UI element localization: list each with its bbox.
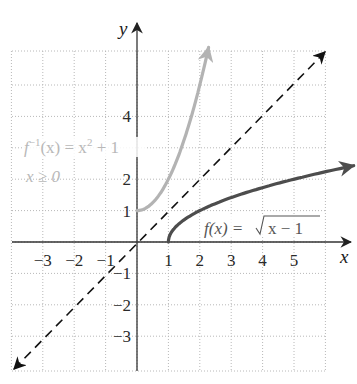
- f-function-label: f(x) =: [204, 219, 243, 238]
- x-tick-label: −3: [34, 251, 52, 270]
- x-tick-label: 1: [164, 251, 173, 270]
- x-tick-labels: −3−2−112345: [34, 251, 298, 270]
- f-radicand: x − 1: [268, 219, 303, 238]
- x-axis-label: x: [339, 246, 349, 267]
- function-inverse-graph: −3−2−112345 421−1−2−3 x y f−1(x) = x2 + …: [0, 0, 357, 384]
- x-tick-label: −2: [65, 251, 83, 270]
- y-tick-label: −1: [113, 264, 131, 283]
- x-tick-label: 4: [258, 251, 267, 270]
- y-axis-label: y: [117, 18, 128, 39]
- inverse-domain-label: x ≥ 0: [25, 167, 60, 186]
- x-tick-label: 3: [227, 251, 236, 270]
- x-tick-label: 2: [196, 251, 205, 270]
- y-tick-label: 4: [123, 107, 132, 126]
- y-tick-label: 1: [123, 202, 132, 221]
- inverse-function-curve: [137, 47, 209, 210]
- y-tick-label: −3: [113, 327, 131, 346]
- y-tick-label: −2: [113, 296, 131, 315]
- x-tick-label: 5: [290, 251, 299, 270]
- y-tick-label: 2: [123, 170, 132, 189]
